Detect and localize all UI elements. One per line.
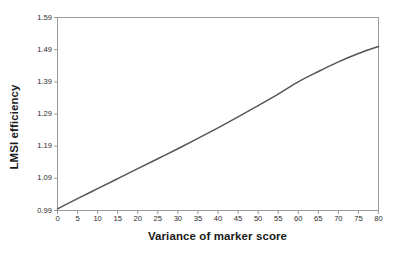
chart-figure: LMSI efficiency 0.991.091.191.291.391.49… <box>0 0 396 254</box>
plot-area <box>0 0 396 254</box>
plot-frame <box>58 18 379 211</box>
